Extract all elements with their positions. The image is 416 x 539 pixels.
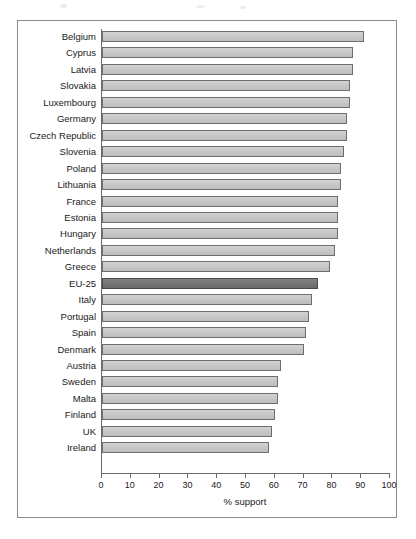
x-axis-tick-label: 10	[117, 480, 143, 491]
x-axis-tick	[101, 473, 102, 478]
scan-artifact	[240, 6, 246, 9]
chart-page: BelgiumCyprusLatviaSlovakiaLuxembourgGer…	[0, 0, 416, 539]
bar-category-label: EU-25	[69, 276, 96, 292]
bar-category-label: Italy	[79, 292, 96, 308]
bar-category-label: Lithuania	[57, 177, 96, 193]
bar-category-label: Czech Republic	[29, 128, 96, 144]
bar	[102, 360, 281, 371]
bar-category-label: Portugal	[61, 309, 96, 325]
bar-category-label: Germany	[57, 111, 96, 127]
bar-category-label: France	[66, 194, 96, 210]
bar	[102, 245, 335, 256]
x-axis-tick	[274, 473, 275, 478]
chart-frame: BelgiumCyprusLatviaSlovakiaLuxembourgGer…	[17, 20, 397, 518]
bar-category-label: Hungary	[60, 226, 96, 242]
bar-category-label: Netherlands	[45, 243, 96, 259]
bar-row: Belgium	[18, 29, 398, 45]
bar-row: UK	[18, 424, 398, 440]
bar	[102, 442, 269, 453]
bar	[102, 409, 275, 420]
x-axis-tick-label: 30	[174, 480, 200, 491]
bar-category-label: UK	[83, 424, 96, 440]
bar-row: Slovakia	[18, 78, 398, 94]
bar-category-label: Luxembourg	[43, 95, 96, 111]
bar-row: Hungary	[18, 226, 398, 242]
bar-row: Spain	[18, 325, 398, 341]
bar	[102, 80, 350, 91]
bar-category-label: Spain	[72, 325, 96, 341]
bar-category-label: Denmark	[57, 342, 96, 358]
bar	[102, 163, 341, 174]
bar-category-label: Ireland	[67, 440, 96, 456]
bar	[102, 261, 330, 272]
scan-artifact	[60, 4, 67, 8]
bar-row: Luxembourg	[18, 95, 398, 111]
bar	[102, 47, 353, 58]
y-axis-line	[101, 29, 102, 473]
x-axis-tick-label: 70	[290, 480, 316, 491]
x-axis-tick	[187, 473, 188, 478]
x-axis-tick	[216, 473, 217, 478]
x-axis-tick-label: 0	[88, 480, 114, 491]
x-axis-tick	[389, 473, 390, 478]
bar	[102, 212, 338, 223]
bar-row: Greece	[18, 259, 398, 275]
bar-category-label: Sweden	[62, 374, 96, 390]
bar-category-label: Poland	[66, 161, 96, 177]
bar-row: Malta	[18, 391, 398, 407]
bar-category-label: Malta	[73, 391, 96, 407]
bar	[102, 327, 306, 338]
bar-row: Netherlands	[18, 243, 398, 259]
x-axis-tick-label: 80	[318, 480, 344, 491]
bar	[102, 228, 338, 239]
x-axis-tick-label: 60	[261, 480, 287, 491]
x-axis-title: % support	[101, 496, 389, 507]
x-axis-tick-label: 100	[376, 480, 402, 491]
x-axis-tick	[245, 473, 246, 478]
bar-row: Sweden	[18, 374, 398, 390]
bar-row: Slovenia	[18, 144, 398, 160]
bar-row: Cyprus	[18, 45, 398, 61]
bar-category-label: Latvia	[71, 62, 96, 78]
bar	[102, 311, 309, 322]
bar-row: Lithuania	[18, 177, 398, 193]
bar	[102, 344, 304, 355]
bar-category-label: Greece	[65, 259, 96, 275]
bar-row: Poland	[18, 161, 398, 177]
bar-row: Ireland	[18, 440, 398, 456]
x-axis-tick-label: 20	[146, 480, 172, 491]
bar-row: Germany	[18, 111, 398, 127]
bar-category-label: Slovakia	[60, 78, 96, 94]
bar-category-label: Finland	[65, 407, 96, 423]
x-axis-tick-label: 90	[347, 480, 373, 491]
bar-row: Latvia	[18, 62, 398, 78]
bar-category-label: Slovenia	[60, 144, 96, 160]
bar	[102, 393, 278, 404]
bar	[102, 146, 344, 157]
x-axis-tick-label: 40	[203, 480, 229, 491]
bar-row: Austria	[18, 358, 398, 374]
x-axis-tick	[130, 473, 131, 478]
bar	[102, 130, 347, 141]
bar-category-label: Estonia	[64, 210, 96, 226]
bar-category-label: Austria	[66, 358, 96, 374]
bar	[102, 278, 318, 289]
bar-row: Estonia	[18, 210, 398, 226]
bar	[102, 426, 272, 437]
bar	[102, 294, 312, 305]
bar	[102, 31, 364, 42]
bar-row: EU-25	[18, 276, 398, 292]
x-axis-tick	[303, 473, 304, 478]
bar	[102, 179, 341, 190]
bar-row: Denmark	[18, 342, 398, 358]
bar	[102, 113, 347, 124]
bar	[102, 97, 350, 108]
x-axis-tick-label: 50	[232, 480, 258, 491]
bar-row: Czech Republic	[18, 128, 398, 144]
bar-row: Italy	[18, 292, 398, 308]
bar-row: Finland	[18, 407, 398, 423]
bar	[102, 64, 353, 75]
plot-area: BelgiumCyprusLatviaSlovakiaLuxembourgGer…	[18, 21, 398, 519]
bar-category-label: Cyprus	[66, 45, 96, 61]
bar-row: France	[18, 194, 398, 210]
